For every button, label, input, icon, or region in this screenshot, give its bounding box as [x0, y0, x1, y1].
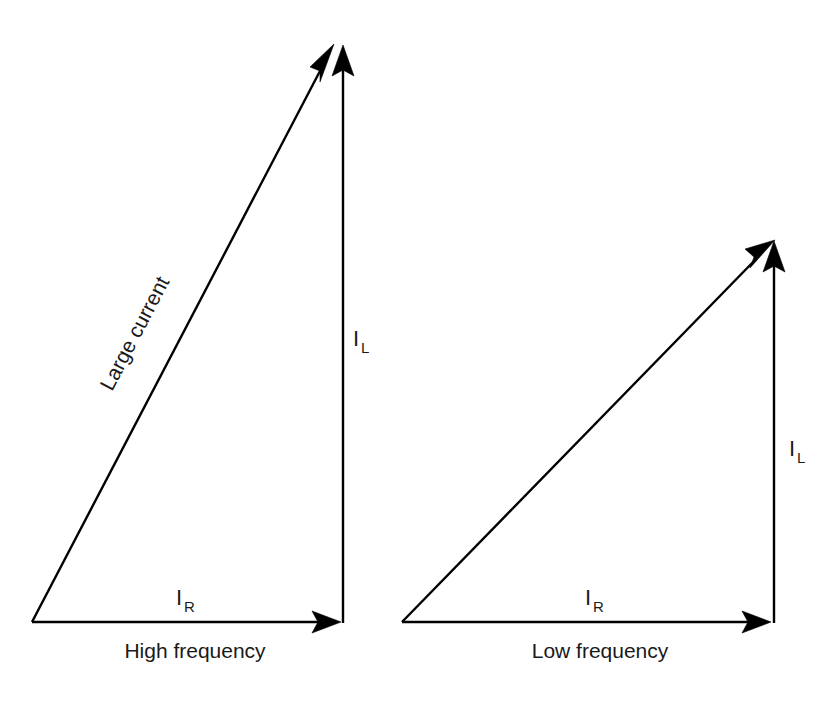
- label-il-main: I: [789, 436, 795, 461]
- label-ir-subscript: R: [593, 598, 604, 615]
- figure-root: Large current I R I L High frequency: [0, 0, 834, 704]
- label-ir-subscript: R: [184, 598, 195, 615]
- caption-low-frequency: Low frequency: [532, 639, 669, 662]
- label-il-subscript: L: [361, 339, 369, 356]
- label-il-subscript: L: [797, 449, 805, 466]
- caption-high-frequency: High frequency: [124, 639, 266, 662]
- label-il-main: I: [353, 326, 359, 351]
- label-ir-main: I: [585, 585, 591, 610]
- phasor-diagram-canvas: Large current I R I L High frequency: [0, 0, 834, 704]
- label-ir-main: I: [176, 585, 182, 610]
